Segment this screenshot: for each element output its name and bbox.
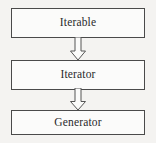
node-label: Iterable <box>60 17 96 29</box>
node-label: Iterator <box>60 69 95 81</box>
node-generator[interactable]: Generator <box>11 110 145 135</box>
down-arrow-icon <box>71 88 86 110</box>
down-arrow-icon <box>71 37 86 60</box>
node-iterable[interactable]: Iterable <box>11 8 145 38</box>
arrow-iterator-to-generator <box>66 88 90 111</box>
node-iterator[interactable]: Iterator <box>11 60 145 90</box>
diagram-canvas: Iterable Iterator Generator <box>0 0 156 143</box>
node-label: Generator <box>54 117 101 129</box>
arrow-iterable-to-iterator <box>66 37 90 61</box>
